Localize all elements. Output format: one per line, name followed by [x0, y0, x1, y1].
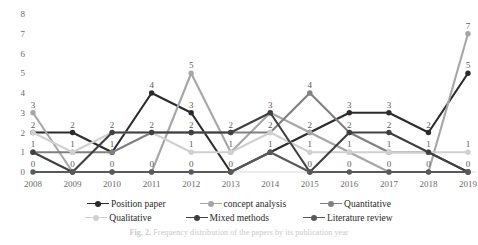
- data-label: 1: [228, 139, 233, 149]
- legend-item-concept-analysis[interactable]: concept analysis: [200, 199, 287, 209]
- data-point: [188, 130, 193, 135]
- legend-label: Quantitative: [344, 199, 391, 209]
- data-point: [188, 169, 193, 174]
- legend-item-quantitative[interactable]: Quantitative: [320, 199, 391, 209]
- data-label: 2: [228, 120, 233, 130]
- data-point: [149, 169, 154, 174]
- caption-label: Fig. 2.: [129, 228, 151, 237]
- data-point: [426, 169, 431, 174]
- x-axis-tick-2011: 2011: [143, 179, 161, 189]
- data-point: [465, 169, 470, 174]
- y-axis-tick-6: 6: [21, 49, 26, 59]
- x-axis-tick-2019: 2019: [459, 179, 478, 189]
- x-axis-tick-2008: 2008: [24, 179, 43, 189]
- data-point: [307, 150, 312, 155]
- data-point: [386, 150, 391, 155]
- x-axis-tick-2013: 2013: [222, 179, 241, 189]
- data-label: 2: [70, 120, 75, 130]
- data-label: 0: [110, 159, 115, 169]
- x-axis-tick-2012: 2012: [182, 179, 200, 189]
- data-label: 0: [426, 159, 431, 169]
- data-point: [188, 110, 193, 115]
- data-point: [149, 130, 154, 135]
- y-axis-tick-8: 8: [21, 9, 26, 19]
- x-axis-tick-2016: 2016: [340, 179, 359, 189]
- data-point: [465, 31, 470, 36]
- y-axis-tick-4: 4: [21, 88, 26, 98]
- data-point: [109, 130, 114, 135]
- series-line: [33, 93, 468, 172]
- y-axis-tick-0: 0: [21, 167, 26, 177]
- data-label: 1: [70, 139, 75, 149]
- data-label: 3: [347, 100, 352, 110]
- data-point: [188, 71, 193, 76]
- data-point: [228, 130, 233, 135]
- data-label: 2: [149, 120, 154, 130]
- data-label: 0: [347, 159, 352, 169]
- data-point: [307, 90, 312, 95]
- data-point: [426, 150, 431, 155]
- data-point: [347, 130, 352, 135]
- data-point: [70, 130, 75, 135]
- chart-plot-area: 0123456783210210210420532102103214210321…: [0, 0, 478, 196]
- data-label: 0: [308, 159, 313, 169]
- data-label: 7: [466, 21, 471, 31]
- legend-item-mixed-methods[interactable]: Mixed methods: [186, 213, 269, 223]
- legend-swatch-icon: [186, 213, 208, 222]
- data-point: [70, 169, 75, 174]
- data-point: [30, 130, 35, 135]
- data-label: 1: [426, 139, 431, 149]
- data-label: 5: [189, 60, 194, 70]
- legend-item-literature-review[interactable]: Literature review: [303, 213, 393, 223]
- data-label: 5: [466, 60, 471, 70]
- x-axis-tick-2018: 2018: [419, 179, 438, 189]
- data-label: 1: [308, 139, 313, 149]
- data-point: [307, 130, 312, 135]
- data-label: 0: [387, 159, 392, 169]
- data-point: [465, 150, 470, 155]
- legend-label: concept analysis: [224, 199, 287, 209]
- data-point: [30, 110, 35, 115]
- data-label: 3: [268, 100, 273, 110]
- data-point: [149, 90, 154, 95]
- data-label: 3: [31, 100, 36, 110]
- series-line: [33, 152, 468, 172]
- legend-item-qualitative[interactable]: Qualitative: [85, 213, 151, 223]
- data-label: 1: [387, 139, 392, 149]
- y-axis-tick-2: 2: [21, 128, 26, 138]
- figure-container: 0123456783210210210420532102103214210321…: [0, 0, 478, 245]
- data-label: 1: [268, 139, 273, 149]
- data-label: 2: [110, 120, 115, 130]
- data-label: 3: [189, 100, 194, 110]
- legend-row-2: QualitativeMixed methodsLiterature revie…: [85, 211, 392, 224]
- data-point: [347, 169, 352, 174]
- legend-row-1: Position paperconcept analysisQuantitati…: [87, 197, 391, 210]
- legend-swatch-icon: [87, 199, 109, 208]
- legend-item-position-paper[interactable]: Position paper: [87, 199, 166, 209]
- data-point: [228, 169, 233, 174]
- x-axis-tick-2015: 2015: [301, 179, 320, 189]
- x-axis-tick-2009: 2009: [64, 179, 83, 189]
- data-label: 3: [387, 100, 392, 110]
- legend-swatch-icon: [200, 199, 222, 208]
- data-point: [188, 150, 193, 155]
- data-point: [386, 110, 391, 115]
- data-label: 4: [308, 80, 313, 90]
- y-axis-tick-3: 3: [21, 108, 26, 118]
- data-point: [70, 150, 75, 155]
- x-axis-tick-2017: 2017: [380, 179, 399, 189]
- chart-legend: Position paperconcept analysisQuantitati…: [0, 197, 478, 225]
- legend-swatch-icon: [85, 213, 107, 222]
- data-point: [386, 130, 391, 135]
- figure-caption: Fig. 2. Frequency distribution of the pa…: [0, 228, 478, 237]
- data-point: [228, 150, 233, 155]
- legend-label: Mixed methods: [210, 213, 269, 223]
- data-label: 4: [149, 80, 154, 90]
- data-label: 2: [387, 120, 392, 130]
- data-label: 1: [189, 139, 194, 149]
- data-label: 0: [466, 159, 471, 169]
- data-label: 2: [347, 120, 352, 130]
- data-point: [268, 130, 273, 135]
- data-point: [386, 169, 391, 174]
- data-point: [109, 150, 114, 155]
